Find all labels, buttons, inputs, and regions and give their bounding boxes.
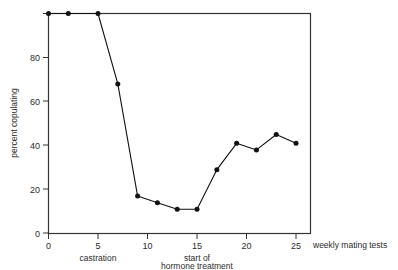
x-axis-title: weekly mating tests — [312, 240, 387, 250]
data-point — [294, 141, 299, 146]
x-tick-label-20: 20 — [241, 241, 251, 251]
data-point — [175, 207, 180, 212]
series-line — [49, 14, 297, 210]
chart-figure: 0 20 40 60 80 percent copulating 0 5 10 … — [0, 0, 398, 270]
data-series-group — [46, 11, 299, 212]
data-point — [115, 81, 120, 86]
y-tick-label-20: 20 — [30, 185, 40, 195]
x-tick-label-5: 5 — [95, 241, 100, 251]
x-axis-ticks — [49, 234, 297, 240]
y-tick-label-40: 40 — [30, 141, 40, 151]
annotation-hormone-line2: hormone treatment — [161, 261, 233, 270]
plot-frame — [49, 14, 311, 234]
data-point — [195, 207, 200, 212]
y-axis-title: percent copulating — [9, 88, 19, 158]
x-tick-label-15: 15 — [192, 241, 202, 251]
annotation-castration: castration — [80, 253, 117, 263]
data-point — [214, 167, 219, 172]
line-chart: 0 20 40 60 80 percent copulating 0 5 10 … — [0, 0, 398, 270]
data-point — [66, 11, 71, 16]
data-point — [96, 11, 101, 16]
x-tick-label-25: 25 — [291, 241, 301, 251]
data-point — [254, 147, 259, 152]
series-markers — [46, 11, 299, 212]
y-tick-label-60: 60 — [30, 97, 40, 107]
y-tick-label-0: 0 — [35, 229, 40, 239]
data-point — [274, 132, 279, 137]
data-point — [46, 11, 51, 16]
data-point — [155, 200, 160, 205]
x-tick-label-0: 0 — [46, 241, 51, 251]
data-point — [234, 141, 239, 146]
y-tick-label-80: 80 — [30, 53, 40, 63]
x-tick-label-10: 10 — [142, 241, 152, 251]
data-point — [135, 194, 140, 199]
y-axis-ticks — [43, 14, 49, 234]
